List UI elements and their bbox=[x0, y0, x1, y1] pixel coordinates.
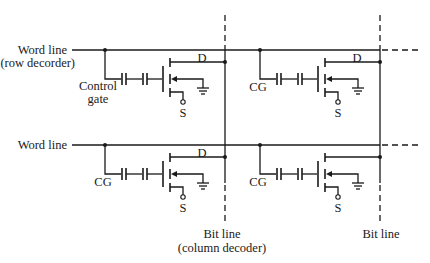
bit-line-2-label: Bit line bbox=[362, 227, 400, 241]
drain-label-r1c1: D bbox=[197, 51, 206, 65]
memory-cell-r2c1 bbox=[103, 143, 227, 199]
word-line-1-sublabel: (row decorder) bbox=[0, 56, 75, 70]
memory-cell-r1c2 bbox=[258, 48, 382, 104]
source-label-r1c2: S bbox=[335, 106, 342, 120]
cg-label-r1c2: CG bbox=[249, 80, 266, 94]
drain-label-r2c1: D bbox=[197, 146, 206, 160]
word-line-1-label: Word line bbox=[18, 43, 68, 57]
cg-label-r2c2: CG bbox=[249, 175, 266, 189]
drain-label-r1c2: D bbox=[352, 51, 361, 65]
control-gate-sublabel: gate bbox=[88, 92, 109, 106]
source-label-r2c1: S bbox=[180, 201, 187, 215]
bit-line-1-label: Bit line bbox=[203, 227, 241, 241]
memory-array-diagram: Word line (row decorder) Word line Contr… bbox=[0, 0, 430, 263]
memory-cell-r1c1 bbox=[103, 48, 227, 104]
source-label-r2c2: S bbox=[335, 201, 342, 215]
cg-label-r2c1: CG bbox=[94, 175, 111, 189]
bit-line-1-sublabel: (column decoder) bbox=[178, 241, 267, 255]
memory-cell-r2c2 bbox=[258, 143, 382, 199]
source-label-r1c1: S bbox=[180, 106, 187, 120]
word-line-2-label: Word line bbox=[18, 138, 68, 152]
control-gate-label: Control bbox=[79, 79, 118, 93]
